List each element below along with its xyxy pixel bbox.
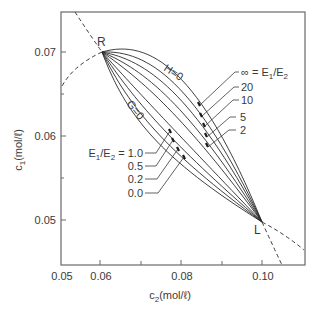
label-10: 10 (241, 94, 253, 106)
x-tick-label: 0.05 (51, 270, 72, 282)
y-tick-label: 0.06 (35, 130, 56, 142)
y-axis: 0.07 0.06 0.05 c1(mol/ℓ) (12, 46, 66, 226)
g0-label: G=0 (124, 98, 146, 122)
lower-family-labels: E1/E2 = 1.0 0.5 0.2 0.0 (89, 131, 184, 199)
point-r-label: R (97, 35, 106, 49)
label-5: 5 (240, 111, 246, 123)
label-0.5: 0.5 (128, 160, 143, 172)
phase-diagram: 0.07 0.06 0.05 c1(mol/ℓ) 0.05 0.06 0.08 … (0, 0, 318, 311)
upper-family-labels: ∞ = E1/E2 20 10 5 2 (200, 66, 289, 147)
x-tick-label: 0.06 (90, 270, 111, 282)
x-axis: 0.05 0.06 0.08 0.10 c2(mol/ℓ) (51, 260, 273, 304)
x-tick-label: 0.10 (252, 270, 273, 282)
point-l-label: L (254, 223, 261, 237)
label-2: 2 (240, 124, 246, 136)
dashed-boundary-lower (262, 222, 282, 265)
dashed-boundary-arc-left (61, 52, 102, 88)
label-0.2: 0.2 (128, 173, 143, 185)
y-tick-label: 0.07 (35, 46, 56, 58)
label-infinity: ∞ = E1/E2 (241, 66, 289, 81)
label-0.0: 0.0 (128, 187, 143, 199)
x-tick-label: 0.08 (171, 270, 192, 282)
y-tick-label: 0.05 (35, 214, 56, 226)
y-axis-label: c1(mol/ℓ) (12, 129, 27, 171)
label-20: 20 (241, 81, 253, 93)
x-axis-label: c2(mol/ℓ) (149, 289, 191, 304)
